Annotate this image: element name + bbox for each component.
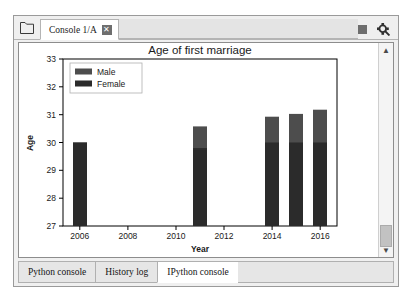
console-window: Console 1/A ✕ Age of first marriage xyxy=(13,15,399,287)
chart-legend: Male Female xyxy=(70,63,142,93)
x-tick-label: 2014 xyxy=(263,231,282,241)
console-tab-strip: Console 1/A ✕ xyxy=(14,16,398,40)
legend-label-male: Male xyxy=(97,67,116,77)
tab-strip-filler xyxy=(119,19,358,39)
bottom-panel-tabs: Python console History log IPython conso… xyxy=(18,261,394,283)
y-tick-label: 33 xyxy=(47,54,57,64)
bottom-tabs-filler xyxy=(238,261,394,283)
x-tick-label: 2012 xyxy=(215,231,234,241)
bar-female-2014 xyxy=(265,143,279,227)
chart-title: Age of first marriage xyxy=(148,44,252,56)
bar-female-2006 xyxy=(73,143,87,227)
tab-history-log[interactable]: History log xyxy=(95,261,157,283)
bar-group-2011 xyxy=(193,126,207,226)
console-tab-label: Console 1/A xyxy=(49,25,97,35)
folder-icon xyxy=(20,22,34,34)
y-axis-ticks: 33 32 31 30 29 28 27 xyxy=(47,54,63,231)
scroll-up-icon[interactable]: ▲ xyxy=(379,43,393,57)
x-axis-label: Year xyxy=(191,244,210,254)
console-tab-console-1a[interactable]: Console 1/A ✕ xyxy=(40,19,119,40)
browse-tabs-button[interactable] xyxy=(14,17,40,39)
tab-python-console[interactable]: Python console xyxy=(18,261,95,283)
bar-female-2011 xyxy=(193,148,207,226)
bar-female-2015 xyxy=(289,143,303,227)
y-axis-label: Age xyxy=(25,135,35,151)
console-toolbar xyxy=(358,23,398,39)
scrollbar-track[interactable] xyxy=(379,57,393,243)
x-tick-label: 2008 xyxy=(118,231,137,241)
scroll-down-icon[interactable]: ▼ xyxy=(379,243,393,257)
y-tick-label: 30 xyxy=(47,138,57,148)
y-tick-label: 29 xyxy=(47,165,57,175)
legend-swatch-female xyxy=(75,81,92,87)
y-tick-label: 31 xyxy=(47,110,57,120)
bar-group-2006 xyxy=(73,143,87,227)
tab-ipython-console[interactable]: IPython console xyxy=(157,261,237,283)
y-tick-label: 32 xyxy=(47,82,57,92)
matplotlib-figure: Age of first marriage 33 32 31 30 29 28 xyxy=(19,43,378,257)
x-tick-label: 2010 xyxy=(167,231,186,241)
bar-group-2016 xyxy=(313,110,327,226)
x-tick-label: 2016 xyxy=(311,231,330,241)
bar-female-2016 xyxy=(313,143,327,227)
y-tick-label: 28 xyxy=(47,193,57,203)
x-tick-label: 2006 xyxy=(70,231,89,241)
legend-label-female: Female xyxy=(97,79,126,89)
y-tick-label: 27 xyxy=(47,221,57,231)
stop-square-icon[interactable] xyxy=(358,25,367,34)
age-of-first-marriage-chart: Age of first marriage 33 32 31 30 29 28 xyxy=(19,43,382,258)
gear-icon[interactable] xyxy=(377,23,390,36)
bar-group-2014 xyxy=(265,117,279,226)
legend-swatch-male xyxy=(75,69,92,75)
bar-group-2015 xyxy=(289,114,303,226)
close-icon[interactable]: ✕ xyxy=(102,25,112,35)
console-output-pane: Age of first marriage 33 32 31 30 29 28 xyxy=(18,42,394,258)
x-axis-ticks: 2006 2008 2010 2012 2014 2016 xyxy=(70,226,330,241)
output-scrollbar[interactable]: ▲ ▼ xyxy=(378,43,393,257)
